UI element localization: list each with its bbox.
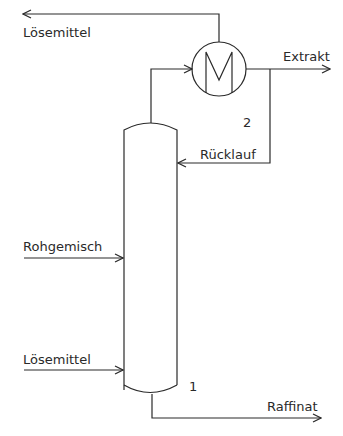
- label-exchanger-number: 2: [243, 115, 251, 130]
- label-solvent-in: Lösemittel: [23, 352, 91, 367]
- label-feed: Rohgemisch: [23, 239, 102, 254]
- label-raffinate: Raffinat: [267, 399, 318, 414]
- extraction-column: [124, 123, 177, 393]
- label-solvent-out: Lösemittel: [23, 25, 91, 40]
- overhead-line: [151, 69, 192, 123]
- label-column-number: 1: [189, 379, 197, 394]
- heat-exchanger: [192, 42, 246, 96]
- label-reflux: Rücklauf: [200, 147, 256, 162]
- process-diagram: Lösemittel Extrakt Rücklauf 2 Rohgemisch…: [0, 0, 343, 436]
- label-extract: Extrakt: [283, 49, 330, 64]
